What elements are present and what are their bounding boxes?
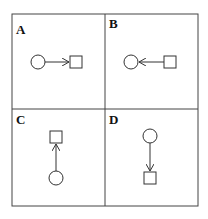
panel-d-diagram — [143, 129, 157, 184]
panel-label-c: C — [16, 113, 25, 126]
panel-label-d: D — [109, 113, 118, 126]
square-node — [164, 56, 176, 68]
square-node — [144, 172, 156, 184]
panel-label-b: B — [109, 17, 118, 30]
square-node — [50, 131, 62, 143]
circle-node — [49, 171, 63, 185]
circle-node — [124, 55, 138, 69]
panel-label-a: A — [16, 23, 25, 36]
panel-a-diagram — [31, 55, 82, 69]
circle-node — [143, 129, 157, 143]
panel-b-diagram — [124, 55, 176, 69]
panel-c-diagram — [49, 131, 63, 185]
circle-node — [31, 55, 45, 69]
diagram-grid — [0, 0, 208, 219]
square-node — [70, 56, 82, 68]
